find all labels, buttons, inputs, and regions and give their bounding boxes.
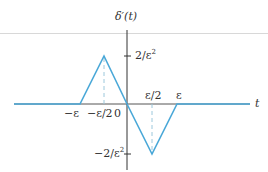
plot-svg: [0, 0, 268, 172]
x-tick-eps: ε: [176, 90, 182, 101]
y-tick-pos-text: 2/ε: [135, 49, 151, 62]
delta-prime-figure: δ′(t) t 2/ε2 −2/ε2 −ε −ε/2 0 ε/2 ε: [0, 0, 268, 172]
x-tick-half-eps: ε/2: [145, 90, 161, 101]
y-tick-neg-exp: 2: [120, 146, 124, 154]
y-axis-label: δ′(t): [115, 11, 137, 22]
x-tick-neg-half-eps: −ε/2: [87, 108, 113, 119]
y-tick-label-pos: 2/ε2: [135, 50, 156, 61]
y-tick-pos-exp: 2: [151, 48, 155, 56]
x-tick-neg-eps: −ε: [64, 108, 79, 119]
y-tick-neg-text: −2/ε: [94, 147, 120, 160]
x-axis-label: t: [255, 98, 259, 109]
signal-curve: [14, 56, 250, 154]
y-tick-label-neg: −2/ε2: [94, 148, 124, 159]
x-tick-zero: 0: [114, 108, 121, 119]
